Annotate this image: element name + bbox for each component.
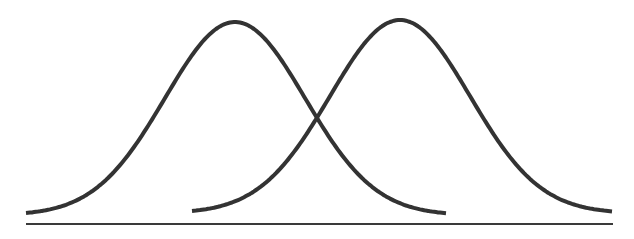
right-bell-curve <box>192 20 612 211</box>
left-bell-curve <box>26 22 446 213</box>
overlapping-bell-curves-diagram <box>0 0 634 239</box>
